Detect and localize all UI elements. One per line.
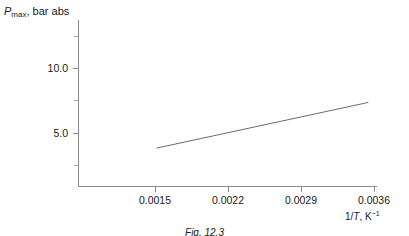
x-tick-label-0022: 0.0022 [198,194,258,206]
x-tick-label-0029: 0.0029 [271,194,331,206]
figure-caption-text: Fig. 12.3 [185,227,224,236]
y-tick-label-5: 5.0 [28,127,68,139]
x-axis-superscript: −1 [372,210,380,217]
figure-caption: Fig. 12.3 [0,227,409,236]
data-line-series-1 [157,103,368,149]
x-axis-ticks [156,187,375,193]
y-tick-label-10: 10.0 [28,62,68,74]
x-tick-label-0015: 0.0015 [125,194,185,206]
y-axis-minor-ticks [74,37,79,166]
figure-container: Pmax, bar abs 10.0 5.0 0.0015 [0,0,409,236]
x-axis-units: , K [359,211,371,222]
x-axis-title: 1/T, K−1 [345,208,380,223]
x-tick-label-0036: 0.0036 [344,194,404,206]
